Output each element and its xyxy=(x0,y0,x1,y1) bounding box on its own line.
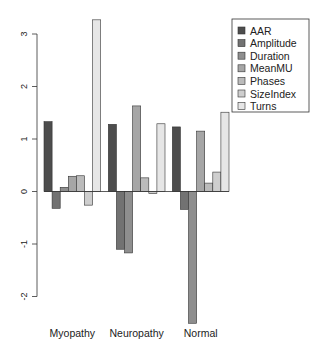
legend: AARAmplitudeDurationMeanMUPhasesSizeInde… xyxy=(232,19,309,112)
y-tick-label: 1 xyxy=(19,136,29,141)
bar-amplitude xyxy=(180,192,188,210)
bar-aar xyxy=(172,127,180,192)
bar-meanmu xyxy=(68,176,76,191)
bar-aar xyxy=(108,124,116,191)
legend-label: Turns xyxy=(250,100,276,112)
legend-swatch-icon xyxy=(238,65,245,72)
legend-label: Phases xyxy=(250,75,285,87)
bar-aar xyxy=(44,122,52,192)
y-tick-label: 2 xyxy=(19,84,29,89)
category-label: Myopathy xyxy=(50,327,96,339)
y-tick-label: 3 xyxy=(19,31,29,36)
bar-meanmu xyxy=(133,106,141,192)
y-tick-label: 0 xyxy=(19,189,29,194)
bar-duration xyxy=(60,187,68,191)
bar-group-normal xyxy=(172,112,229,323)
bar-phases xyxy=(141,178,149,192)
bar-group-neuropathy xyxy=(108,106,165,253)
bars xyxy=(44,20,229,323)
category-labels: MyopathyNeuropathyNormal xyxy=(50,327,218,339)
legend-label: MeanMU xyxy=(250,62,293,74)
bar-meanmu xyxy=(197,131,205,191)
bar-group-myopathy xyxy=(44,20,101,208)
bar-turns xyxy=(93,20,101,192)
legend-swatch-icon xyxy=(238,40,245,47)
legend-swatch-icon xyxy=(238,27,245,34)
legend-swatch-icon xyxy=(238,52,245,59)
y-tick-label: -1 xyxy=(19,240,29,248)
legend-swatch-icon xyxy=(238,77,245,84)
legend-swatch-icon xyxy=(238,103,245,110)
bar-sizeindex xyxy=(213,172,221,191)
bar-amplitude xyxy=(116,192,124,250)
bar-turns xyxy=(221,112,229,191)
bar-turns xyxy=(157,124,165,192)
y-axis: -2-10123 xyxy=(19,31,37,300)
legend-swatch-icon xyxy=(238,90,245,97)
category-label: Normal xyxy=(184,327,218,339)
grouped-bar-chart: -2-10123 MyopathyNeuropathyNormal AARAmp… xyxy=(0,0,311,354)
category-label: Neuropathy xyxy=(110,327,165,339)
legend-label: SizeIndex xyxy=(250,88,297,100)
bar-amplitude xyxy=(52,192,60,209)
legend-label: AAR xyxy=(250,25,272,37)
bar-phases xyxy=(205,183,213,191)
bar-duration xyxy=(125,192,133,253)
bar-duration xyxy=(189,192,197,324)
y-tick-label: -2 xyxy=(19,292,29,300)
bar-sizeindex xyxy=(85,192,93,206)
legend-label: Duration xyxy=(250,50,290,62)
legend-label: Amplitude xyxy=(250,37,297,49)
bar-phases xyxy=(76,176,84,192)
